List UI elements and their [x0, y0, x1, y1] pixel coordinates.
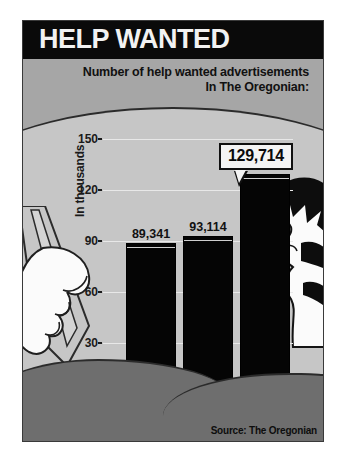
- plot-area: 150 120 90 60 30 0 89,341 1992: [103, 139, 293, 395]
- y-tick-label-30: 30: [85, 336, 98, 350]
- y-tick-mark-90: [98, 240, 102, 242]
- page-title: HELP WANTED: [39, 24, 230, 55]
- chart-frame: HELP WANTED Number of help wanted advert…: [22, 20, 324, 442]
- y-tick-label-120: 120: [78, 183, 98, 197]
- bar-value-1992: 89,341: [132, 227, 170, 241]
- y-tick-mark-30: [98, 342, 102, 344]
- chart-subtitle: Number of help wanted advertisements In …: [23, 65, 313, 95]
- source-credit: Source: The Oregonian: [211, 425, 317, 436]
- y-tick-mark-150: [98, 138, 102, 140]
- bar-1994[interactable]: 1994: [240, 174, 290, 395]
- y-tick-label-150: 150: [78, 132, 98, 146]
- infographic-root: HELP WANTED Number of help wanted advert…: [0, 0, 341, 458]
- title-banner: HELP WANTED: [23, 21, 323, 59]
- callout-1994-value: 129,714: [219, 143, 293, 170]
- y-tick-label-60: 60: [85, 285, 98, 299]
- bar-cap-1992: [127, 244, 175, 248]
- gridline-150: [103, 139, 293, 140]
- bar-cap-1994: [241, 175, 289, 179]
- bar-value-1993: 93,114: [189, 220, 227, 234]
- callout-tail-fill: [235, 170, 246, 183]
- y-axis-label: In thousands: [73, 145, 87, 217]
- subtitle-line-2: In The Oregonian:: [23, 80, 313, 95]
- y-tick-mark-120: [98, 189, 102, 191]
- y-tick-label-90: 90: [85, 234, 98, 248]
- y-tick-mark-60: [98, 291, 102, 293]
- subtitle-line-1: Number of help wanted advertisements: [23, 65, 313, 80]
- bar-cap-1993: [184, 237, 232, 241]
